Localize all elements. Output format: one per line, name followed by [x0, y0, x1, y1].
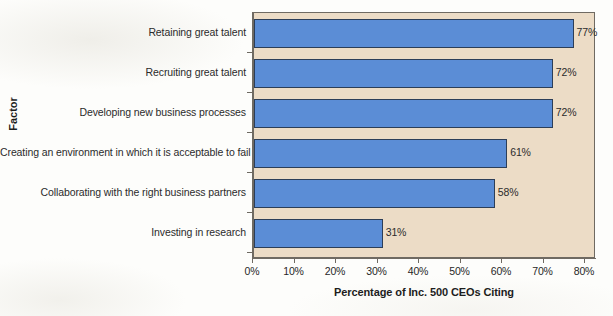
x-axis-tick-label: 80% — [564, 265, 604, 277]
x-axis-tick-label: 10% — [274, 265, 314, 277]
y-axis-tick — [247, 92, 253, 93]
x-axis-line — [252, 258, 596, 259]
x-axis-tick-label: 40% — [398, 265, 438, 277]
category-label: Creating an environment in which it is a… — [0, 146, 246, 158]
category-label: Developing new business processes — [0, 106, 246, 118]
x-axis-tick — [377, 258, 378, 263]
bars-container — [254, 13, 594, 257]
x-axis-tick-label: 20% — [315, 265, 355, 277]
bar-value-label: 31% — [386, 226, 407, 238]
x-axis-tick — [584, 258, 585, 263]
y-axis-tick — [247, 212, 253, 213]
bar — [254, 139, 507, 168]
bar — [254, 59, 553, 88]
category-label: Collaborating with the right business pa… — [0, 186, 246, 198]
bar-value-label: 58% — [498, 186, 519, 198]
bar-value-label: 77% — [577, 26, 598, 38]
x-axis-title: Percentage of Inc. 500 CEOs Citing — [253, 286, 595, 298]
bar — [254, 19, 574, 48]
x-axis-tick — [501, 258, 502, 263]
category-label: Recruiting great talent — [0, 66, 246, 78]
bar — [254, 99, 553, 128]
x-axis-tick — [543, 258, 544, 263]
x-axis-tick — [252, 258, 253, 263]
bar — [254, 219, 383, 248]
y-axis-title: Factor — [7, 84, 19, 144]
bar — [254, 179, 495, 208]
category-label: Retaining great talent — [0, 26, 246, 38]
x-axis-tick-label: 0% — [232, 265, 272, 277]
bar-chart: 77%72%72%61%58%31%Retaining great talent… — [0, 0, 613, 316]
x-axis-tick — [418, 258, 419, 263]
y-axis-line — [252, 12, 253, 259]
y-axis-tick — [247, 132, 253, 133]
x-axis-tick-label: 70% — [523, 265, 563, 277]
x-axis-tick-label: 30% — [357, 265, 397, 277]
bar-value-label: 72% — [556, 66, 577, 78]
x-axis-tick — [460, 258, 461, 263]
bar-value-label: 72% — [556, 106, 577, 118]
y-axis-tick — [247, 172, 253, 173]
x-axis-tick-label: 60% — [481, 265, 521, 277]
category-label: Investing in research — [0, 226, 246, 238]
plot-area — [253, 12, 595, 258]
bar-value-label: 61% — [510, 146, 531, 158]
x-axis-tick — [335, 258, 336, 263]
x-axis-tick — [294, 258, 295, 263]
y-axis-tick — [247, 252, 253, 253]
x-axis-tick-label: 50% — [440, 265, 480, 277]
y-axis-tick — [247, 52, 253, 53]
